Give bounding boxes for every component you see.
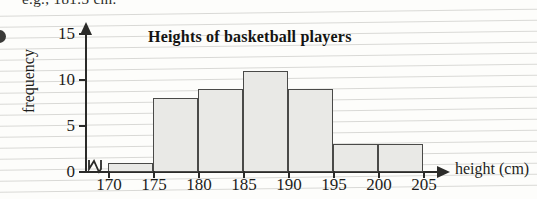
scanned-page: e.g., 181.3 cm. Heights of basketball pl… xyxy=(0,0,537,199)
histogram-chart: Heights of basketball players frequency … xyxy=(0,0,537,199)
y-tick-label-15: 15 xyxy=(35,25,75,42)
x-tick-label-180: 180 xyxy=(176,176,222,193)
x-tick-label-200: 200 xyxy=(356,176,402,193)
x-tick-label-185: 185 xyxy=(221,176,267,193)
y-tick-label-5: 5 xyxy=(35,117,75,134)
bar-200-205 xyxy=(378,144,423,172)
x-tick-label-190: 190 xyxy=(266,176,312,193)
bar-195-200 xyxy=(333,144,378,172)
x-tick-label-195: 195 xyxy=(311,176,357,193)
x-tick-label-170: 170 xyxy=(86,176,132,193)
bar-190-195 xyxy=(288,89,333,172)
y-tick-label-0: 0 xyxy=(35,163,75,180)
bar-175-180 xyxy=(153,98,198,172)
histogram-bars xyxy=(86,33,444,172)
x-axis-title: height (cm) xyxy=(455,160,529,178)
bar-180-185 xyxy=(198,89,243,172)
bar-170-175 xyxy=(108,163,153,172)
y-tick-label-10: 10 xyxy=(35,71,75,88)
x-tick-label-205: 205 xyxy=(401,176,447,193)
x-tick-label-175: 175 xyxy=(131,176,177,193)
bar-185-190 xyxy=(243,71,288,172)
